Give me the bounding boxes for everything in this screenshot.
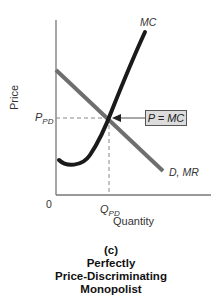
demand-mr-label: D, MR (169, 166, 199, 178)
mc-label: MC (140, 16, 156, 28)
caption-title-line3: Monopolist (0, 283, 222, 297)
caption-title-line2: Price-Discriminating (0, 270, 222, 284)
caption-panel-label: (c) (0, 244, 222, 258)
pmc-arrow-head (112, 114, 121, 122)
price-axis-label: Price (8, 85, 20, 110)
quantity-axis-label: Quantity (113, 215, 154, 227)
pmc-annotation-box: P = MC (145, 110, 187, 126)
caption-title-line1: Perfectly (0, 257, 222, 271)
p-pd-label: PPD (35, 111, 53, 126)
mc-curve (59, 32, 145, 165)
p-pd-sub: PD (42, 117, 53, 126)
origin-label: 0 (46, 198, 52, 210)
q-pd-main: Q (100, 203, 109, 215)
